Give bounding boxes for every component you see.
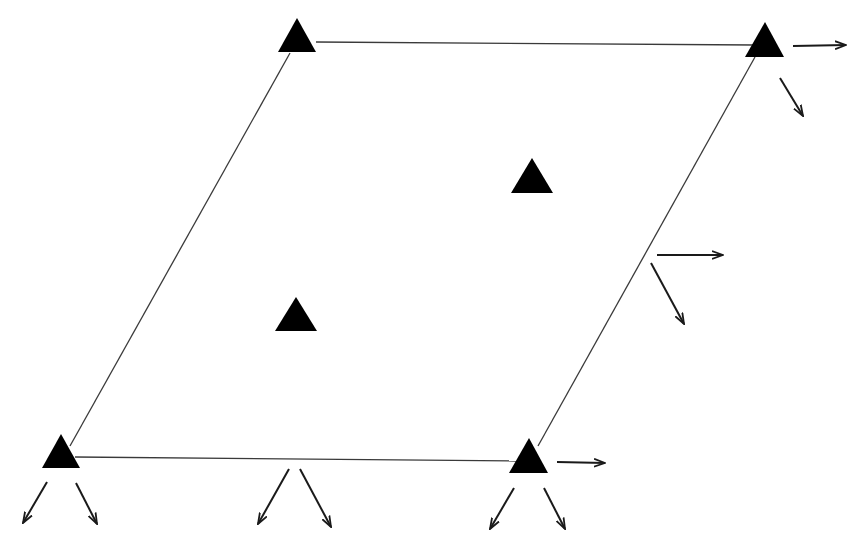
arrow-bottom-mid-left-icon [258, 469, 289, 524]
right-edge [538, 57, 755, 446]
triangle-top-left-icon [278, 18, 316, 52]
triangle-bottom-right-icon [509, 438, 548, 473]
diagram-canvas [0, 0, 861, 549]
arrow-mid-right-diagonal-icon [651, 263, 684, 324]
arrow-bottom-right-right-icon [544, 488, 565, 529]
force-arrows [23, 45, 846, 529]
arrow-top-right-diagonal-icon [780, 78, 803, 116]
parallelogram-edges [70, 42, 755, 461]
arrow-bottom-left-left-icon [23, 482, 47, 523]
bottom-edge [75, 457, 517, 461]
support-triangles [42, 18, 784, 473]
triangle-interior-upper-icon [511, 158, 553, 193]
arrow-top-right-horizontal-icon [793, 45, 846, 46]
triangle-top-right-icon [745, 22, 784, 57]
arrow-bottom-right-left-icon [490, 488, 514, 529]
top-edge [316, 42, 755, 45]
arrow-bottom-left-right-icon [76, 483, 97, 524]
triangle-interior-lower-icon [275, 297, 317, 331]
arrow-bottom-right-horizontal-icon [557, 462, 605, 463]
arrow-bottom-mid-right-icon [300, 469, 331, 527]
left-edge [70, 53, 290, 446]
